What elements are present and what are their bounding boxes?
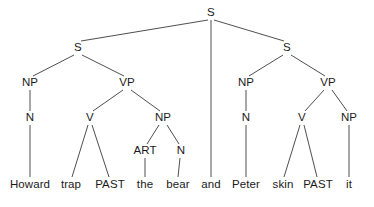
edge-right_v-to-leaf-skin — [284, 125, 300, 177]
edge-right_vp-to-right_v — [305, 90, 324, 111]
edge-left_vp-to-left_obj_np — [131, 90, 160, 111]
edge-left_s-to-left_vp — [82, 55, 124, 76]
leaf-bear: bear — [166, 179, 189, 191]
edge-right_v-to-leaf-past-2 — [304, 125, 317, 177]
node-art: ART — [133, 145, 156, 157]
leaf-it: it — [346, 179, 352, 191]
edge-left_vp-to-left_v — [93, 90, 123, 111]
node-left-s: S — [74, 42, 82, 54]
leaf-and: and — [201, 179, 221, 191]
edge-left_s-to-left_np — [33, 55, 74, 76]
edge-root_s-to-left_s — [81, 20, 208, 41]
tree-edges-layer — [0, 0, 374, 207]
edge-obj_n-to-leaf-bear — [178, 158, 180, 177]
node-left-n: N — [26, 112, 34, 124]
edge-right_vp-to-right_obj_np — [332, 90, 347, 111]
leaf-peter: Peter — [232, 179, 260, 191]
leaf-howard: Howard — [10, 179, 50, 191]
node-left-np: NP — [22, 77, 38, 89]
node-left-vp: VP — [119, 77, 135, 89]
node-right-vp: VP — [320, 77, 336, 89]
syntax-tree-figure: S S S NP VP NP VP N V NP N V NP ART N Ho… — [0, 0, 374, 207]
node-right-np: NP — [238, 77, 254, 89]
node-object-n: N — [177, 145, 185, 157]
node-left-object-np: NP — [155, 112, 171, 124]
leaf-past-2: PAST — [303, 179, 333, 191]
leaf-trap: trap — [61, 179, 81, 191]
node-right-s: S — [283, 42, 291, 54]
edge-left_obj_np-to-obj_n — [167, 125, 179, 144]
edge-left_v-to-leaf-past-1 — [92, 125, 109, 177]
leaf-skin: skin — [273, 179, 294, 191]
edge-right_s-to-right_np — [249, 55, 283, 76]
edge-right_s-to-right_vp — [291, 55, 325, 76]
node-right-n: N — [242, 112, 250, 124]
edge-root_s-to-right_s — [214, 20, 284, 41]
edge-left_obj_np-to-art — [147, 125, 159, 144]
leaf-past-1: PAST — [95, 179, 125, 191]
node-right-v: V — [298, 112, 306, 124]
node-root-s: S — [207, 7, 215, 19]
node-right-object-np: NP — [341, 112, 357, 124]
node-left-v: V — [86, 112, 94, 124]
edge-left_v-to-leaf-trap — [72, 125, 88, 177]
leaf-the: the — [137, 179, 153, 191]
